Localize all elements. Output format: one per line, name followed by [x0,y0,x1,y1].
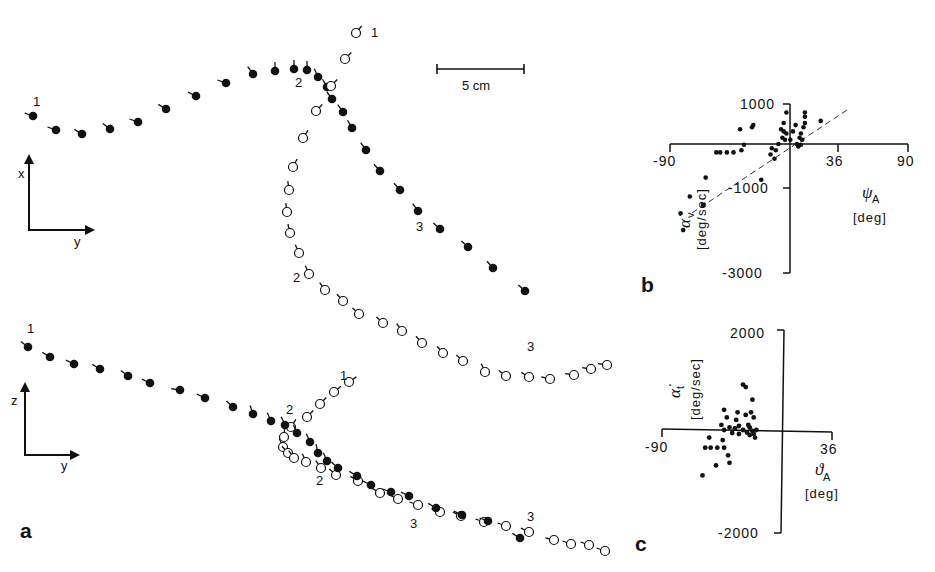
open-marker [582,365,595,374]
filled-marker [461,241,472,251]
open-marker [376,317,387,328]
data-point [678,211,683,216]
track-time-label: 2 [316,473,323,488]
data-point [783,138,788,143]
x-axis-label: ϑ A [deg] [805,460,839,501]
filled-marker [103,124,114,134]
y-tick-2000: 2000 [730,325,765,341]
data-point [727,425,732,430]
track-time-label: 3 [410,516,417,531]
y-tick-1000: 1000 [740,96,775,112]
data-point [768,152,773,157]
track-time-label: 3 [416,219,423,234]
axis-label-y: y [74,234,81,249]
open-marker [498,522,511,531]
data-point [714,463,719,468]
filled-marker [158,104,170,113]
data-point [750,125,755,130]
y-axis-label: α̇ t [deg/sec] [665,358,703,420]
open-marker-track [279,377,610,556]
axis-label-x: x [18,166,25,181]
axis-label-y: y [61,458,68,473]
open-marker [286,224,295,237]
data-point [724,415,729,420]
filled-marker [42,352,54,361]
filled-marker [171,386,184,395]
filled-marker [512,533,524,542]
filled-marker [218,79,231,88]
filled-marker [290,60,299,73]
open-track-labels: 123 [316,368,534,524]
track-time-label: 1 [371,25,378,40]
data-point [751,415,756,420]
svg-text:A: A [872,193,880,205]
y-tick-minus-1000: -1000 [728,180,769,196]
open-marker [299,130,308,142]
filled-marker [48,126,61,135]
open-marker [316,398,327,409]
scale-bar-label: 5 cm [462,78,490,93]
open-marker [437,346,448,357]
x-tick-36: 36 [820,441,838,457]
filled-marker [74,129,86,138]
open-marker [352,26,362,38]
open-marker [303,411,314,422]
filled-marker [306,434,315,447]
filled-marker [348,120,357,132]
filled-marker [374,164,384,175]
open-marker [545,536,558,545]
open-marker [327,80,338,91]
track-time-label: 2 [293,270,300,285]
data-point [738,127,743,132]
track-time-label: 3 [527,339,534,354]
data-point [803,110,808,115]
open-marker [598,361,611,370]
data-point [803,114,808,119]
data-point [737,432,742,437]
data-point [803,121,808,126]
data-point [708,445,713,450]
data-point [742,143,747,148]
filled-marker [428,503,440,512]
data-point [784,131,789,136]
open-marker-track [283,26,612,384]
x-tick-minus-90: -90 [645,439,668,455]
filled-marker [121,371,133,381]
filled-marker [338,105,348,117]
filled-marker [323,453,332,466]
filled-marker [363,481,375,490]
open-marker [372,488,384,497]
filled-marker-track [21,342,525,543]
filled-marker [361,143,371,155]
svg-text:A: A [823,471,831,483]
x-axis-label: ψ A [deg] [853,183,887,225]
x-tick-36: 36 [826,153,844,169]
data-point [703,445,708,450]
data-point [799,131,804,136]
data-point [722,428,727,433]
xy-axes-indicator: x y [18,154,95,249]
data-point [754,428,759,433]
y-tick-minus-2000: -2000 [718,525,759,541]
open-marker [289,451,299,463]
filled-marker [66,360,78,369]
top-view-panel: x y 123 123 5 cm [18,25,612,384]
open-marker [337,294,348,305]
data-point [722,407,727,412]
data-point [749,410,754,415]
track-time-label: 3 [527,509,534,524]
open-marker [341,53,352,64]
filled-marker [142,379,154,388]
filled-marker [267,413,276,426]
x-tick-minus-90: -90 [653,153,676,169]
y-axis-label: α̇ v [deg/sec] [675,188,709,250]
arrow-right-icon [70,450,80,460]
data-point [725,150,730,155]
svg-text:[deg/sec]: [deg/sec] [694,188,709,250]
filled-marker [303,61,312,74]
open-marker [397,324,407,336]
data-point [801,125,806,130]
data-point [739,148,744,153]
data-point [734,418,739,423]
open-marker [320,283,330,295]
